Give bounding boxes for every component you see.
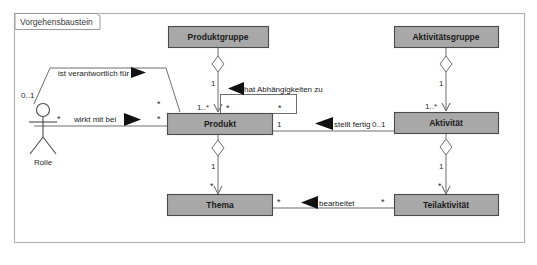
- mult-teilaktivitaet-bearbeitet: *: [381, 197, 385, 207]
- mult-aktivitaet-teil-part: *: [438, 181, 442, 191]
- mult-produkt-stellt-fertig: 1: [277, 120, 282, 129]
- mult-produkt-verantwortlich: *: [157, 99, 161, 109]
- package-tab-label: Vorgehensbaustein: [20, 17, 93, 27]
- association-label-hat-abhaengigkeiten-zu: hat Abhängigkeiten zu: [244, 85, 323, 94]
- mult-produkt-loop-source: *: [226, 103, 230, 113]
- association-label-wirkt-mit-bei: wirkt mit bei: [73, 115, 116, 124]
- class-label-produkt: Produkt: [204, 119, 236, 129]
- class-label-aktivitaetsgruppe: Aktivitätsgruppe: [412, 32, 479, 42]
- class-aktivitaetsgruppe[interactable]: Aktivitätsgruppe: [395, 27, 499, 48]
- association-label-stellt-fertig: stellt fertig: [334, 120, 370, 129]
- mult-rolle-verantwortlich: 0..1: [21, 91, 35, 100]
- class-label-teilaktivitaet: Teilaktivität: [423, 200, 469, 210]
- association-label-bearbeitet: bearbeitet: [319, 199, 355, 208]
- mult-thema-bearbeitet: *: [277, 197, 281, 207]
- uml-class-diagram: Vorgehensbaustein Produkt (vertical aggr…: [0, 0, 537, 265]
- mult-produktgruppe-whole: 1: [211, 79, 216, 88]
- class-label-aktivitaet: Aktivität: [429, 118, 463, 128]
- class-produkt[interactable]: Produkt: [168, 114, 273, 135]
- mult-aktivitaetsgruppe-part: 1..*: [425, 102, 437, 111]
- mult-aktivitaet-teil-whole: 1: [439, 162, 444, 171]
- mult-aktivitaetsgruppe-whole: 1: [439, 79, 444, 88]
- mult-produkt-thema-part: *: [210, 181, 214, 191]
- mult-produkt-thema-whole: 1: [211, 162, 216, 171]
- class-teilaktivitaet[interactable]: Teilaktivität: [395, 195, 499, 216]
- class-label-produktgruppe: Produktgruppe: [188, 32, 249, 42]
- class-label-thema: Thema: [206, 200, 234, 210]
- mult-produktgruppe-part: 1..*: [197, 103, 209, 112]
- mult-aktivitaet-stellt-fertig: 0..1: [372, 120, 386, 129]
- class-produktgruppe[interactable]: Produktgruppe: [169, 27, 269, 48]
- class-aktivitaet[interactable]: Aktivität: [395, 113, 499, 134]
- association-label-ist-verantwortlich-fuer: ist verantwortlich für: [58, 69, 129, 78]
- mult-rolle-wirkt: *: [57, 114, 61, 124]
- mult-produkt-wirkt: *: [157, 114, 161, 124]
- mult-produkt-loop-target: *: [278, 103, 282, 113]
- actor-label-rolle: Rolle: [34, 158, 53, 167]
- class-thema[interactable]: Thema: [168, 195, 273, 216]
